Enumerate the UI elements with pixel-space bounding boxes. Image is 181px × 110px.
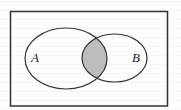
set-b-label: B <box>132 50 140 65</box>
set-a-label: A <box>30 50 39 65</box>
venn-diagram: A B <box>0 0 181 110</box>
